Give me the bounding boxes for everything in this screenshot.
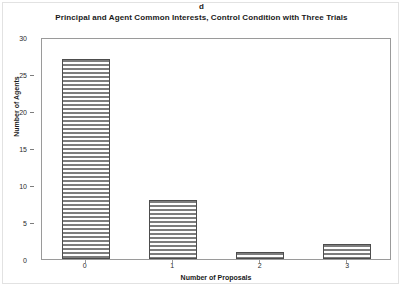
bar-slot: [303, 39, 390, 259]
y-tick-label: 30: [19, 35, 27, 42]
y-tick-label: 25: [19, 72, 27, 79]
bar-slot: [129, 39, 216, 259]
y-axis-title: Number of Agents: [13, 47, 20, 167]
y-tick-mark: [30, 186, 34, 187]
panel-label: d: [0, 2, 403, 11]
y-tick-label: 15: [19, 146, 27, 153]
y-tick-label: 10: [19, 183, 27, 190]
x-tick-label: 3: [304, 262, 392, 269]
x-axis: 0123: [41, 262, 391, 269]
y-tick-mark: [30, 149, 34, 150]
plot-area: [41, 38, 391, 260]
y-tick-mark: [30, 112, 34, 113]
x-tick-label: 1: [129, 262, 217, 269]
bar-slot: [216, 39, 303, 259]
x-tick-label: 0: [41, 262, 129, 269]
y-tick-mark: [30, 75, 34, 76]
y-tick-label: 20: [19, 109, 27, 116]
bar-slot: [42, 39, 129, 259]
bar[interactable]: [323, 244, 371, 259]
bar[interactable]: [62, 59, 110, 259]
x-axis-title: Number of Proposals: [41, 274, 391, 281]
bar[interactable]: [149, 200, 197, 259]
y-tick-label: 0: [23, 257, 27, 264]
figure-container: d Principal and Agent Common Interests, …: [0, 0, 403, 288]
x-tick-label: 2: [216, 262, 304, 269]
y-tick-label: 5: [23, 220, 27, 227]
chart-title: Principal and Agent Common Interests, Co…: [0, 13, 403, 22]
bar[interactable]: [236, 252, 284, 259]
y-tick-mark: [30, 223, 34, 224]
bar-series: [42, 39, 390, 259]
